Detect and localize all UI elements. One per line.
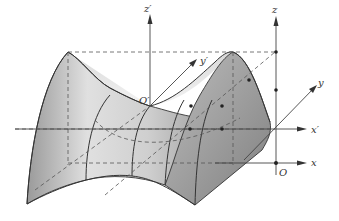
surface-point-5 [220, 127, 224, 131]
surface-point-4 [188, 127, 192, 131]
x-prime-arrow-icon [297, 127, 307, 132]
saddle-diagram: z′ y′ O′ z x′ x y O [0, 0, 339, 221]
z-point-1 [274, 50, 278, 54]
y-prime-label: y′ [199, 55, 209, 66]
z-prime-arrow-icon [148, 14, 153, 24]
z-label: z [271, 4, 278, 15]
z-arrow-icon [274, 16, 279, 26]
origin-point [274, 161, 278, 165]
o-label: O [279, 167, 287, 178]
z-point-2 [274, 88, 278, 92]
z-prime-label: z′ [143, 3, 152, 14]
x-prime-label: x′ [311, 124, 320, 135]
surface-point-3 [220, 104, 224, 108]
o-prime-label: O′ [139, 95, 150, 106]
x-arrow-icon [297, 161, 307, 166]
surface-point-2 [189, 104, 193, 108]
x-label: x [311, 157, 317, 168]
y-label: y [317, 77, 324, 88]
surface-point-1 [247, 78, 251, 82]
